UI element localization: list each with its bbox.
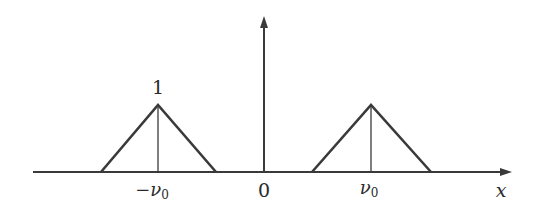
y-axis <box>260 16 268 172</box>
x-axis-label: x <box>496 179 507 201</box>
right-triangle-pulse <box>312 105 431 172</box>
left-triangle-pulse <box>101 105 216 172</box>
peak-label: 1 <box>152 76 164 98</box>
tick-label-nu0: ν0 <box>360 177 379 200</box>
tick-label-neg-nu0: −ν0 <box>135 179 169 202</box>
x-axis-arrow-icon <box>500 168 512 176</box>
diagram-canvas: 1 −ν0 0 ν0 x <box>0 0 535 213</box>
origin-label: 0 <box>258 179 270 201</box>
y-axis-arrow-icon <box>260 16 268 28</box>
